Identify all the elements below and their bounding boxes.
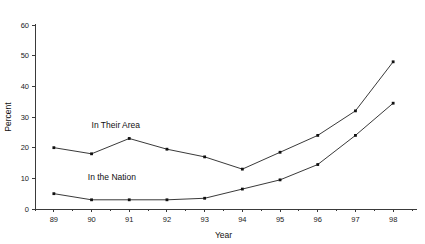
series-annotation-1: In Their Area (92, 120, 141, 130)
data-point-1-94 (241, 168, 244, 171)
y-tick-label: 0 (25, 205, 29, 214)
data-point-2-94 (241, 188, 244, 191)
data-point-1-89 (52, 146, 55, 149)
chart-canvas: 0102030405060 89909192939495969798 In Th… (0, 0, 425, 244)
data-point-1-91 (128, 137, 131, 140)
data-point-1-95 (279, 151, 282, 154)
series-annotations: In Their AreaIn the Nation (88, 120, 141, 182)
series-annotation-2: In the Nation (88, 172, 136, 182)
data-point-2-91 (128, 198, 131, 201)
x-tick-label: 93 (200, 215, 208, 224)
data-point-2-98 (392, 102, 395, 105)
data-point-1-93 (203, 155, 206, 158)
y-tick-label: 40 (21, 82, 29, 91)
y-axis-ticks: 0102030405060 (21, 21, 35, 214)
data-point-2-92 (166, 198, 169, 201)
data-point-1-92 (166, 148, 169, 151)
x-axis-ticks: 89909192939495969798 (35, 209, 412, 224)
data-point-1-96 (316, 134, 319, 137)
data-point-2-96 (316, 163, 319, 166)
y-tick-label: 30 (21, 113, 29, 122)
y-tick-label: 10 (21, 174, 29, 183)
data-point-2-97 (354, 134, 357, 137)
data-point-1-98 (392, 60, 395, 63)
data-point-2-95 (279, 178, 282, 181)
x-tick-label: 94 (238, 215, 246, 224)
y-axis-title: Percent (3, 102, 13, 132)
x-tick-label: 96 (314, 215, 322, 224)
x-tick-label: 95 (276, 215, 284, 224)
x-axis-title: Year (215, 230, 232, 240)
data-point-1-90 (90, 152, 93, 155)
x-tick-label: 92 (163, 215, 171, 224)
data-point-1-97 (354, 109, 357, 112)
data-point-2-89 (52, 192, 55, 195)
y-tick-label: 20 (21, 143, 29, 152)
data-point-2-93 (203, 197, 206, 200)
y-tick-label: 50 (21, 51, 29, 60)
series-line-1 (54, 62, 393, 169)
y-tick-label: 60 (21, 21, 29, 30)
series-line-2 (54, 103, 393, 200)
data-point-2-90 (90, 198, 93, 201)
x-tick-label: 98 (389, 215, 397, 224)
x-tick-label: 90 (87, 215, 95, 224)
x-tick-label: 89 (50, 215, 58, 224)
line-chart: 0102030405060 89909192939495969798 In Th… (0, 0, 425, 244)
x-tick-label: 91 (125, 215, 133, 224)
x-tick-label: 97 (351, 215, 359, 224)
